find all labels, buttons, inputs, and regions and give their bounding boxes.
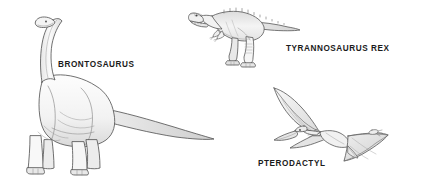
tyrannosaurus-foot-near [241,63,256,67]
pterodactyl-eye [299,129,301,131]
brontosaurus-rear-leg-far [86,140,100,169]
pterodactyl-head-crest [295,126,307,132]
brontosaurus-neck [41,19,63,82]
pterodactyl-left-wing [274,88,320,133]
tyrannosaurus-leg-far [229,38,238,62]
tyrannosaurus-foot-far [226,61,240,65]
pterodactyl-right-wing [344,133,388,161]
species-label-brontosaurus: BRONTOSAURUS [58,61,135,69]
pterodactyl-beak [274,131,298,140]
brontosaurus-front-leg-near [28,136,43,172]
tyrannosaurus-figure [188,2,308,72]
brontosaurus-front-leg-far [42,140,54,169]
species-label-pterodactyl: PTERODACTYL [258,160,325,168]
brontosaurus-front-foot [27,168,45,174]
tyrannosaurus-claws [210,37,217,42]
pterodactyl-figure [252,86,398,164]
brontosaurus-head [35,17,54,28]
brontosaurus-rear-leg-near [72,142,87,173]
brontosaurus-rear-foot [71,170,89,175]
brontosaurus-tail [100,108,214,139]
tyrannosaurus-eye [195,14,197,16]
brontosaurus-eye [45,21,47,23]
species-label-tyrannosaurus-rex: TYRANNOSAURUS REX [286,45,390,53]
dinosaur-illustration-poster: BRONTOSAURUS TYRANNOSAURUS REX PTERODACT… [0,0,432,188]
tyrannosaurus-rex-illustration [188,2,308,72]
pterodactyl-illustration [252,86,398,164]
brontosaurus-body [39,75,115,147]
